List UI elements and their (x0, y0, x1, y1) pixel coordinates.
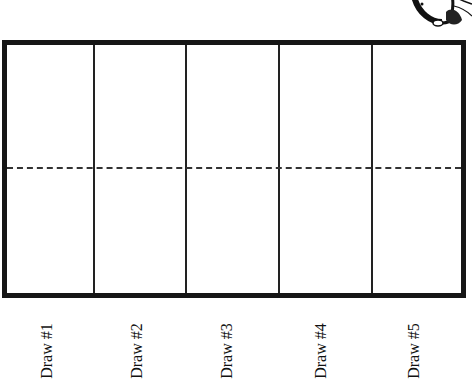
column-divider (185, 45, 187, 293)
column-label: Draw #2 (127, 318, 147, 384)
cartoon-character-icon (408, 0, 472, 36)
column-divider (93, 45, 95, 293)
column-label: Draw #3 (217, 318, 237, 384)
column-label: Draw #4 (311, 318, 331, 384)
drawing-frame (2, 40, 466, 298)
dashed-midline (7, 167, 461, 169)
column-label: Draw #5 (404, 318, 424, 384)
column-divider (371, 45, 373, 293)
column-divider (278, 45, 280, 293)
column-label: Draw #1 (37, 318, 57, 384)
